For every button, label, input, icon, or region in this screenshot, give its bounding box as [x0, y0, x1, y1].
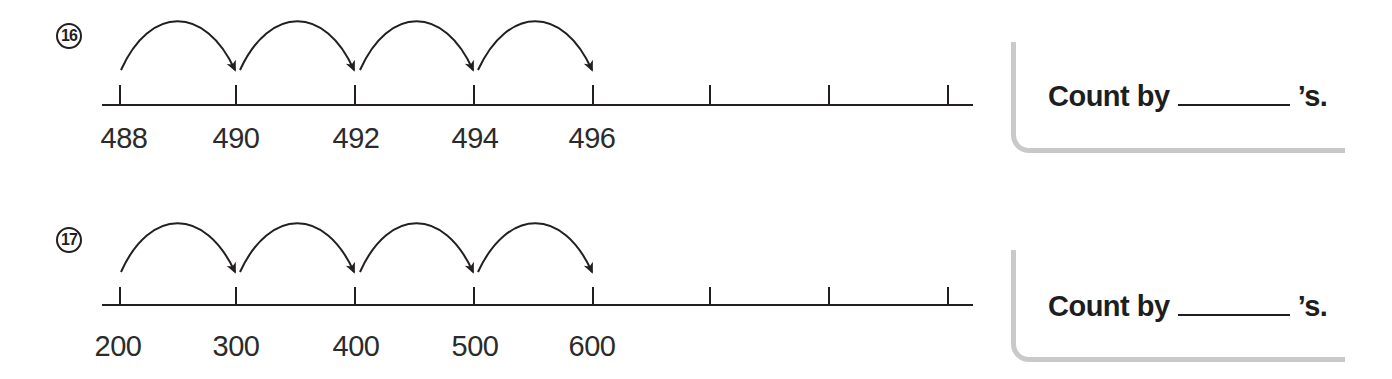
prompt-before: Count by [1048, 80, 1170, 112]
answer-box-16: Count by’s. [1011, 42, 1345, 153]
tick-label: 600 [569, 330, 616, 363]
number-line-17 [0, 200, 1000, 379]
answer-blank-17[interactable] [1178, 294, 1290, 316]
tick-label: 300 [213, 330, 260, 363]
hop-arrows [121, 223, 592, 272]
prompt-before: Count by [1048, 290, 1170, 322]
count-by-prompt: Count by’s. [1048, 290, 1327, 323]
prompt-after: ’s. [1298, 80, 1328, 112]
tick-label: 200 [95, 330, 142, 363]
tick-label: 494 [452, 122, 499, 155]
tick-label: 496 [569, 122, 616, 155]
count-by-prompt: Count by’s. [1048, 80, 1327, 113]
problem-17: 17 200 300 400 500 600 Coun [0, 200, 1392, 379]
answer-box-17: Count by’s. [1011, 250, 1345, 362]
tick-label: 488 [101, 122, 148, 155]
tick-label: 400 [333, 330, 380, 363]
ticks [120, 287, 948, 305]
number-line-16 [0, 0, 1000, 190]
problem-16: 16 488 490 492 494 496 Coun [0, 0, 1392, 190]
tick-label: 500 [452, 330, 499, 363]
tick-label: 490 [213, 122, 260, 155]
answer-blank-16[interactable] [1178, 84, 1290, 106]
ticks [120, 85, 948, 105]
prompt-after: ’s. [1298, 290, 1328, 322]
hop-arrows [121, 21, 592, 70]
tick-label: 492 [333, 122, 380, 155]
